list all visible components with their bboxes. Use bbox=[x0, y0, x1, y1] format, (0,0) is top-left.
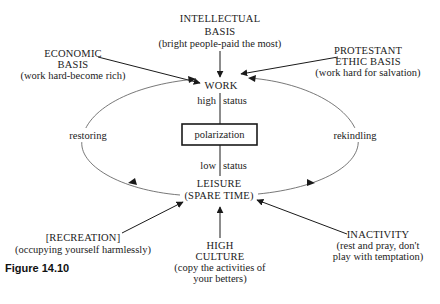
status-label-upper: status bbox=[223, 95, 247, 106]
low-label-left: low bbox=[200, 160, 216, 171]
leisure-node-sub: (SPARE TIME) bbox=[184, 190, 254, 202]
high-label-left: high bbox=[197, 95, 216, 106]
work-node: WORK bbox=[205, 80, 238, 91]
status-label-lower: status bbox=[223, 160, 247, 171]
economic-basis-title-2: BASIS bbox=[58, 59, 89, 70]
diagram-canvas: INTELLECTUAL BASIS (bright people-paid t… bbox=[0, 0, 440, 304]
protestant-ethic-desc: (work hard for salvation) bbox=[315, 67, 421, 79]
economic-basis-node: ECONOMIC BASIS (work hard-become rich) bbox=[21, 48, 126, 82]
polarization-label: polarization bbox=[194, 129, 245, 140]
inactivity-desc-2: play with temptation) bbox=[333, 251, 424, 263]
leisure-node: LEISURE bbox=[197, 178, 242, 189]
arrow-recreation-to-leisure bbox=[122, 202, 183, 233]
protestant-ethic-node: PROTESTANT ETHIC BASIS (work hard for sa… bbox=[315, 45, 421, 79]
high-culture-node: HIGH CULTURE (copy the activities of you… bbox=[174, 240, 266, 285]
high-culture-desc-2: your betters) bbox=[193, 273, 247, 285]
intellectual-basis-node: INTELLECTUAL BASIS (bright people-paid t… bbox=[159, 13, 282, 50]
intellectual-basis-desc: (bright people-paid the most) bbox=[159, 38, 282, 50]
intellectual-basis-title: INTELLECTUAL bbox=[180, 13, 261, 24]
arrow-inactivity-to-leisure bbox=[257, 200, 347, 234]
restoring-label: restoring bbox=[69, 130, 107, 141]
rekindling-arrowhead-lower bbox=[307, 179, 315, 186]
economic-basis-desc: (work hard-become rich) bbox=[21, 70, 126, 82]
recreation-desc: (occupying yourself harmlessly) bbox=[15, 244, 151, 256]
high-culture-title: HIGH bbox=[206, 240, 233, 251]
high-culture-title-2: CULTURE bbox=[196, 251, 245, 262]
recreation-node: [RECREATION] (occupying yourself harmles… bbox=[15, 232, 151, 256]
rekindling-label: rekindling bbox=[333, 130, 377, 141]
restoring-arrowhead-lower bbox=[128, 178, 137, 185]
inactivity-title: INACTIVITY bbox=[347, 229, 410, 240]
economic-basis-title: ECONOMIC bbox=[44, 48, 102, 59]
rekindling-arrowhead-upper bbox=[248, 75, 256, 82]
figure-caption: Figure 14.10 bbox=[5, 262, 69, 274]
recreation-title: [RECREATION] bbox=[46, 232, 121, 243]
protestant-ethic-title-2: ETHIC BASIS bbox=[335, 56, 401, 67]
protestant-ethic-title: PROTESTANT bbox=[334, 45, 403, 56]
intellectual-basis-title-2: BASIS bbox=[205, 26, 236, 37]
